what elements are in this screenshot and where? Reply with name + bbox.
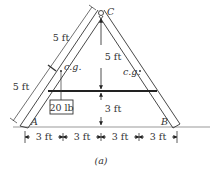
- cg-left-dot: [60, 70, 62, 72]
- label-load: 20 lb: [49, 102, 73, 113]
- label-cg-left: c.g.: [64, 61, 81, 72]
- label-height-lower: 3 ft: [105, 103, 122, 114]
- label-point-a: A: [30, 116, 38, 127]
- label-point-b: B: [160, 116, 168, 127]
- label-left-lower-5ft: 5 ft: [13, 81, 30, 92]
- label-dim-2: 3 ft: [74, 131, 91, 142]
- label-left-upper-5ft: 5 ft: [53, 32, 70, 43]
- ladder-diagram: 5 ft 5 ft 5 ft 3 ft c.g. c.g. 20 lb C A …: [0, 0, 219, 180]
- label-height-upper: 5 ft: [105, 51, 122, 62]
- label-dim-4: 3 ft: [150, 131, 167, 142]
- label-cg-right: c.g.: [123, 66, 140, 77]
- hinge-c: [99, 11, 104, 16]
- label-dim-3: 3 ft: [112, 131, 129, 142]
- label-point-c: C: [107, 6, 115, 17]
- figure-caption: (a): [94, 155, 107, 166]
- label-dim-1: 3 ft: [36, 131, 53, 142]
